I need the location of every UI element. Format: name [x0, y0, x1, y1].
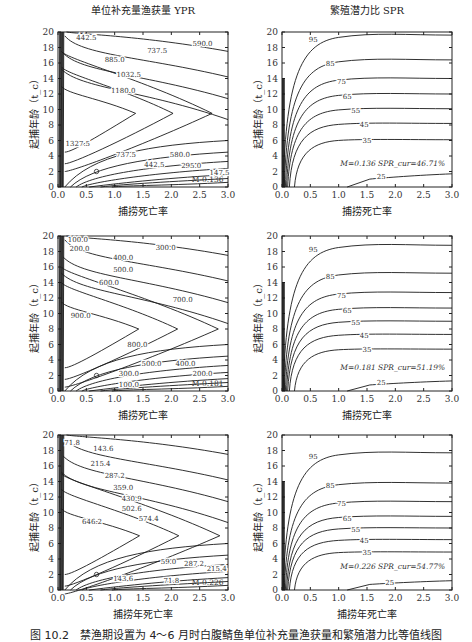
y-tick-label: 18: [267, 43, 279, 53]
y-tick-label: 8: [48, 324, 54, 334]
y-tick-label: 2: [48, 371, 54, 381]
spr-panel-p6: 0.00.51.01.52.02.53.00246810121416182095…: [267, 430, 460, 603]
contour-label: 646.2: [82, 518, 102, 526]
y-tick-label: 4: [48, 151, 54, 161]
x-tick-label: 2.0: [164, 394, 179, 404]
y-axis-label: 起捕年龄（t_c）: [26, 469, 41, 559]
contour-label: 590.0: [192, 40, 212, 48]
y-axis-label: 起捕年龄（t_c）: [250, 66, 265, 156]
contour-label: 400.0: [113, 254, 133, 262]
contour-label: 1327.5: [66, 140, 91, 148]
contour-label: 287.2: [105, 472, 125, 480]
y-tick-label: 12: [43, 492, 54, 502]
y-tick-label: 10: [43, 508, 55, 518]
x-tick-label: 2.0: [388, 190, 403, 200]
x-tick-label: 1.0: [108, 593, 123, 603]
contour-label: 215.4: [90, 460, 111, 468]
contour-label: 71.8: [64, 439, 80, 447]
contour-label: 580.0: [170, 151, 190, 159]
y-axis-label: 起捕年龄（t_c）: [26, 270, 41, 360]
contour-label: 430.9: [122, 495, 142, 503]
ypr-panel-p3: 0.00.51.01.52.02.53.00246810121416182010…: [43, 231, 236, 404]
x-tick-label: 1.5: [360, 593, 375, 603]
y-tick-label: 20: [267, 27, 279, 37]
y-tick-label: 2: [272, 167, 278, 177]
x-tick-label: 3.0: [221, 190, 236, 200]
y-tick-label: 20: [43, 430, 55, 440]
contour-label: 25: [377, 173, 386, 181]
y-tick-label: 16: [43, 58, 55, 68]
panel-title: 繁殖潜力比 SPR: [282, 2, 452, 17]
contour-label: 442.5: [144, 161, 164, 169]
contour-label: 300.0: [119, 370, 139, 378]
contour-label: 85: [326, 482, 335, 490]
y-tick-label: 14: [43, 74, 55, 84]
x-tick-label: 1.5: [136, 394, 151, 404]
x-axis-label: 捕捞死亡率: [282, 203, 452, 218]
x-tick-label: 1.5: [136, 190, 151, 200]
contour-label: 75: [337, 78, 346, 86]
spr-panel-p4: 0.00.51.01.52.02.53.00246810121416182095…: [267, 231, 460, 404]
contour-label: 59.0: [161, 558, 177, 566]
y-tick-label: 10: [43, 309, 55, 319]
x-tick-label: 3.0: [221, 593, 236, 603]
y-tick-label: 20: [43, 27, 55, 37]
contour-label: 215.4: [207, 565, 228, 573]
y-tick-label: 0: [272, 386, 278, 396]
y-tick-label: 20: [267, 430, 279, 440]
x-tick-label: 1.0: [108, 190, 123, 200]
y-tick-label: 2: [272, 570, 278, 580]
y-tick-label: 2: [48, 167, 54, 177]
y-tick-label: 2: [272, 371, 278, 381]
y-tick-label: 18: [267, 247, 279, 257]
contour-label: 45: [360, 121, 369, 129]
y-tick-label: 8: [48, 120, 54, 130]
y-tick-label: 18: [43, 446, 55, 456]
contour-label: 75: [337, 500, 346, 508]
y-tick-label: 0: [272, 182, 278, 192]
y-tick-label: 10: [267, 508, 279, 518]
y-tick-label: 12: [267, 293, 278, 303]
x-axis-label: 捕捞死亡率: [58, 203, 228, 218]
y-tick-label: 12: [267, 89, 278, 99]
y-tick-label: 4: [48, 554, 54, 564]
spr-annotation: M=0.181 SPR_cur=51.19%: [339, 363, 445, 372]
contour-label: 55: [351, 319, 360, 327]
y-tick-label: 8: [272, 120, 278, 130]
x-tick-label: 2.0: [388, 593, 403, 603]
contour-label: 800.0: [127, 341, 147, 349]
ypr-panel-p1: 0.00.51.01.52.02.53.00246810121416182044…: [43, 27, 236, 200]
y-tick-label: 4: [272, 355, 278, 365]
contour-label: 885.0: [105, 56, 125, 64]
contour-label: 600.0: [99, 279, 119, 287]
x-tick-label: 1.5: [360, 190, 375, 200]
x-tick-label: 0.5: [79, 394, 94, 404]
y-tick-label: 14: [267, 74, 279, 84]
y-tick-label: 6: [272, 539, 278, 549]
contour-label: 100.0: [119, 381, 139, 389]
y-tick-label: 6: [48, 539, 54, 549]
contour-label: 85: [326, 273, 335, 281]
y-tick-label: 10: [43, 105, 55, 115]
contour-label: 500.0: [141, 360, 161, 368]
y-tick-label: 0: [48, 386, 54, 396]
x-tick-label: 2.0: [388, 394, 403, 404]
y-tick-label: 12: [43, 89, 54, 99]
y-tick-label: 12: [267, 492, 278, 502]
contour-label: 1032.5: [117, 71, 142, 79]
contour-label: 35: [363, 549, 372, 557]
contour-label: 143.6: [113, 575, 134, 583]
y-tick-label: 14: [267, 278, 279, 288]
x-tick-label: 3.0: [221, 394, 236, 404]
y-tick-label: 4: [272, 151, 278, 161]
spr-annotation: M=0.226 SPR_cur=54.77%: [339, 562, 445, 571]
contour-label: 400.0: [175, 360, 195, 368]
x-tick-label: 0.5: [303, 593, 318, 603]
contour-label: 359.0: [113, 484, 133, 492]
y-tick-label: 18: [267, 446, 279, 456]
x-tick-label: 3.0: [445, 190, 460, 200]
x-tick-label: 2.5: [417, 394, 432, 404]
x-tick-label: 1.5: [136, 593, 151, 603]
x-tick-label: 2.0: [164, 190, 179, 200]
